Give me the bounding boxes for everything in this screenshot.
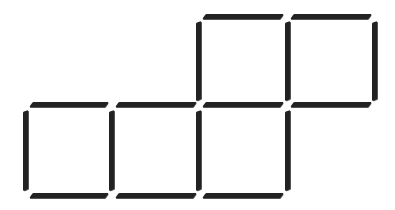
matchstick-vertical (196, 110, 201, 191)
matchstick-horizontal (115, 193, 197, 198)
matchstick-diagram (0, 0, 395, 210)
matchstick-horizontal (29, 193, 109, 198)
matchstick-vertical (285, 110, 290, 191)
matchstick-vertical (372, 21, 377, 101)
matchstick-vertical (109, 110, 114, 191)
matchstick-vertical (23, 110, 28, 191)
matchstick-horizontal (290, 14, 372, 19)
matchstick-horizontal (115, 102, 197, 107)
matchstick-horizontal (202, 193, 284, 198)
matchstick-vertical (196, 21, 201, 101)
matchstick-horizontal (202, 102, 284, 107)
matchstick-horizontal (202, 14, 284, 19)
matchstick-horizontal (290, 102, 372, 107)
matchstick-horizontal (29, 102, 109, 107)
matchstick-vertical (285, 21, 290, 101)
